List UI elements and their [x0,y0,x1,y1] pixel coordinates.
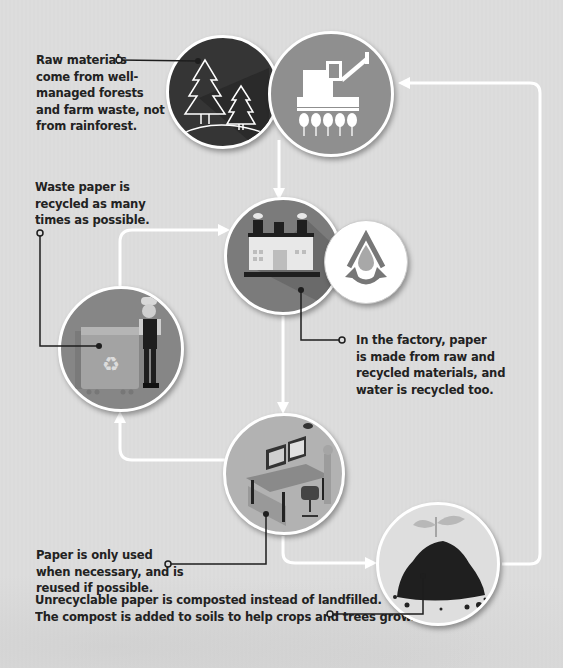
leader-lines [0,0,563,668]
